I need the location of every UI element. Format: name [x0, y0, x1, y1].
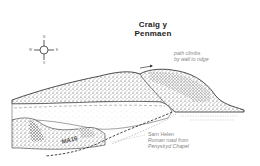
- arrow-head-icon: [150, 65, 153, 68]
- road-note-line-3: Penystryd Chapel: [148, 143, 189, 149]
- road-leader: [112, 135, 145, 142]
- path-note: path climbs by wall to ridge: [174, 50, 209, 62]
- compass-north: N: [43, 35, 45, 39]
- title-line-1: Craig y: [118, 20, 188, 29]
- title-line-2: Penmaen: [118, 29, 188, 38]
- compass-south: S: [43, 61, 45, 65]
- field-lines: [178, 112, 240, 120]
- path-note-line-2: by wall to ridge: [174, 56, 209, 62]
- compass-rose: N S W E: [28, 34, 60, 66]
- compass-east: E: [56, 48, 58, 52]
- compass-west: W: [29, 48, 32, 52]
- map-title: Craig y Penmaen: [118, 20, 188, 38]
- road-note: Sarn Helen Roman road from Penystryd Cha…: [148, 131, 189, 150]
